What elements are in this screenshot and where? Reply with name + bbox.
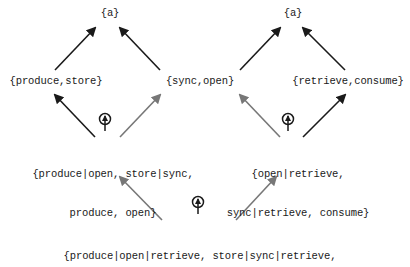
node-low-right: {open|retrieve, sync|retrieve, consume} — [208, 142, 388, 233]
node-bottom: {produce|open|retrieve, store|sync|retri… — [50, 224, 350, 267]
edge-low-left-to-sync-open — [120, 95, 160, 137]
node-low-left: {produce|open, store|sync, produce, open… — [20, 142, 206, 233]
node-line: {open|retrieve, — [208, 168, 388, 181]
edge-low-left-to-produce-store — [55, 95, 95, 137]
edge-produce-store-to-a — [55, 28, 95, 70]
node-produce-store: {produce,store} — [0, 75, 112, 88]
node-line: {produce|open|retrieve, store|sync|retri… — [50, 250, 350, 263]
node-retrieve-consume: {retrieve,consume} — [286, 75, 410, 88]
node-line: sync|retrieve, consume} — [208, 207, 388, 220]
node-line: {produce|open, store|sync, — [20, 168, 206, 181]
edge-retrieve-consume-to-a — [303, 28, 345, 70]
edge-sync-open-to-a-left — [120, 28, 160, 70]
node-line: produce, open} — [20, 207, 206, 220]
edge-sync-open-to-a-right — [240, 28, 280, 70]
self-loop-icon — [100, 114, 111, 132]
self-loop-icon — [283, 114, 294, 132]
edge-low-right-to-retrieve-consume — [303, 95, 345, 137]
node-top-right: {a} — [279, 7, 307, 20]
node-sync-open: {sync,open} — [150, 75, 250, 88]
node-top-left: {a} — [96, 7, 124, 20]
edge-low-right-to-sync-open — [240, 95, 280, 137]
